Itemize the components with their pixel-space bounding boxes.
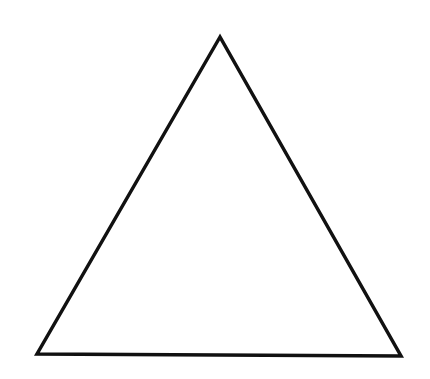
triangle-figure [0,0,430,379]
diagram-canvas [0,0,430,379]
triangle-shape [37,37,401,356]
